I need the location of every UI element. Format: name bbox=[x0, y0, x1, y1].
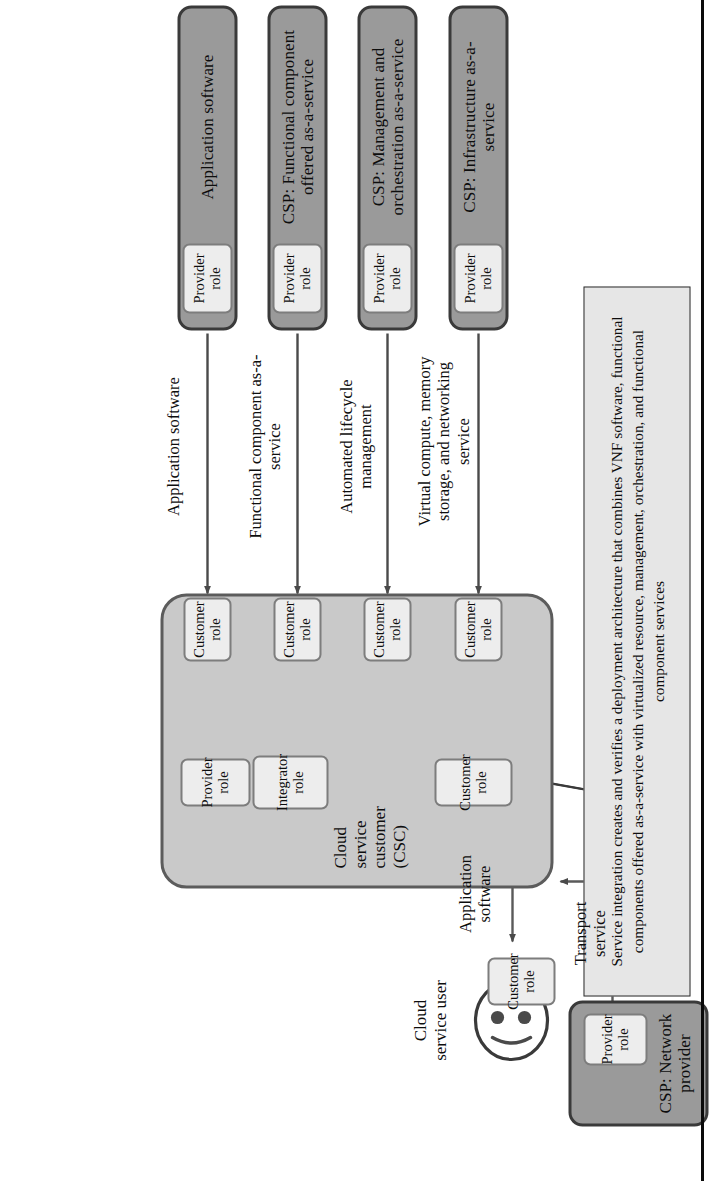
csc-integrator-role[interactable]: Integrator role bbox=[252, 755, 328, 809]
chip-line-1: Provider bbox=[462, 253, 478, 303]
chip-line-1: Integrator bbox=[274, 753, 290, 810]
chip-line-2: role bbox=[387, 267, 403, 290]
chip-line-2: role bbox=[207, 618, 223, 641]
edge-label-user-application-software: Application software bbox=[455, 846, 494, 941]
figure-page: Application software Provider role CSP: … bbox=[0, 0, 710, 1181]
chip-line-1: Customer bbox=[281, 601, 297, 657]
cloud-service-user-customer-role[interactable]: Customer role bbox=[487, 957, 555, 1005]
chip-line-1: Customer bbox=[462, 601, 478, 657]
chip-line-2: role bbox=[290, 771, 306, 794]
provider-role-chip[interactable]: Provider role bbox=[453, 243, 503, 313]
annotation-text: Service integration creates and verifies… bbox=[605, 299, 668, 983]
chip-line-2: role bbox=[478, 267, 494, 290]
chip-line-1: Provider bbox=[199, 757, 215, 807]
csc-customer-role-2[interactable]: Customer role bbox=[273, 597, 321, 661]
provider-box-application-software[interactable]: Application software Provider role bbox=[177, 5, 237, 330]
page-border-rule bbox=[701, 0, 704, 1181]
provider-title: CSP: Management and orchestration as-a-s… bbox=[368, 22, 406, 231]
provider-box-csp-network-provider[interactable]: CSP: Network provider Provider role bbox=[568, 1000, 708, 1126]
chip-line-2: role bbox=[387, 618, 403, 641]
diagram-stage: Application software Provider role CSP: … bbox=[0, 0, 710, 1181]
provider-box-csp-management-orchestration[interactable]: CSP: Management and orchestration as-a-s… bbox=[357, 5, 417, 330]
chip-line-1: Customer bbox=[457, 754, 473, 810]
csc-label: Cloud service customer (CSC) bbox=[330, 776, 408, 868]
provider-role-chip[interactable]: Provider role bbox=[583, 1013, 647, 1065]
provider-title: CSP: Network provider bbox=[655, 1013, 693, 1113]
chip-line-2: role bbox=[297, 618, 313, 641]
chip-line-1: Provider bbox=[281, 253, 297, 303]
csc-customer-role-1[interactable]: Customer role bbox=[183, 597, 231, 661]
edge-label-functional-component: Functional component as-a-service bbox=[245, 351, 284, 541]
chip-line-2: role bbox=[478, 618, 494, 641]
edge-label-virtual-compute: Virtual compute, memory storage, and net… bbox=[414, 341, 472, 541]
cloud-service-user-label: Cloud service user bbox=[410, 977, 449, 1063]
edge-label-transport-service: Transport service bbox=[570, 883, 609, 983]
provider-title: CSP: Infrastructure as-a-service bbox=[459, 22, 497, 231]
chip-line-2: role bbox=[215, 771, 231, 794]
csc-customer-role-4[interactable]: Customer role bbox=[454, 597, 502, 661]
chip-line-1: Customer bbox=[191, 601, 207, 657]
chip-line-1: Provider bbox=[599, 1014, 615, 1064]
edge-label-automated-lifecycle: Automated lifecycle management bbox=[336, 351, 375, 541]
chip-line-2: role bbox=[297, 267, 313, 290]
chip-line-2: role bbox=[615, 1028, 631, 1051]
chip-line-1: Customer bbox=[505, 953, 521, 1009]
provider-role-chip[interactable]: Provider role bbox=[272, 243, 322, 313]
csc-provider-role[interactable]: Provider role bbox=[180, 758, 250, 806]
chip-line-1: Customer bbox=[371, 601, 387, 657]
chip-line-2: role bbox=[207, 267, 223, 290]
csc-bottom-customer-role[interactable]: Customer role bbox=[434, 758, 512, 806]
chip-line-1: Provider bbox=[191, 253, 207, 303]
provider-role-chip[interactable]: Provider role bbox=[362, 243, 412, 313]
chip-line-2: role bbox=[521, 970, 537, 993]
csc-customer-role-3[interactable]: Customer role bbox=[363, 597, 411, 661]
provider-role-chip[interactable]: Provider role bbox=[182, 243, 232, 313]
provider-title: Application software bbox=[197, 22, 216, 231]
chip-line-1: Provider bbox=[371, 253, 387, 303]
edge-label-application-software: Application software bbox=[163, 351, 182, 541]
provider-box-csp-functional-component[interactable]: CSP: Functional component offered as-a-s… bbox=[267, 5, 327, 330]
chip-line-2: role bbox=[473, 771, 489, 794]
provider-title: CSP: Functional component offered as-a-s… bbox=[278, 22, 316, 231]
provider-box-csp-infrastructure[interactable]: CSP: Infrastructure as-a-service Provide… bbox=[448, 5, 508, 330]
